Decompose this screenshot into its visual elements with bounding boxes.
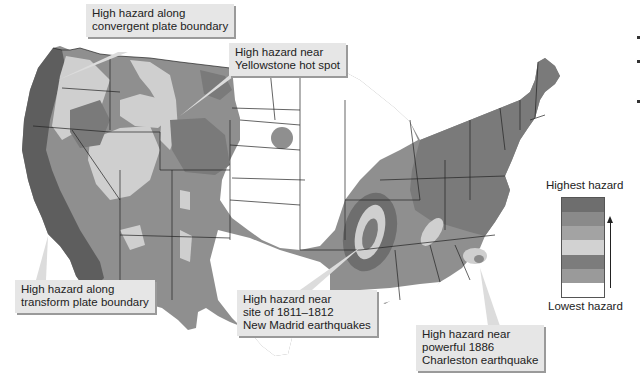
legend-band-2 — [562, 269, 604, 283]
callout-charleston: High hazard near powerful 1886 Charlesto… — [416, 325, 544, 371]
legend-bottom-label: Lowest hazard — [548, 300, 623, 312]
cropped-text-mark — [637, 36, 640, 39]
callout-line: Yellowstone hot spot — [235, 59, 340, 72]
legend-band-7 — [562, 198, 604, 212]
cropped-text-mark — [637, 60, 640, 63]
callout-line: transform plate boundary — [21, 296, 149, 309]
callout-line: High hazard near — [235, 46, 340, 59]
callout-line: High hazard along — [21, 283, 149, 296]
callout-line: powerful 1886 — [422, 341, 538, 354]
legend-band-5 — [562, 226, 604, 240]
legend-band-1 — [562, 283, 604, 297]
callout-line: High hazard near — [422, 328, 538, 341]
legend-top-label: Highest hazard — [546, 179, 623, 191]
callout-convergent: High hazard along convergent plate bound… — [86, 4, 234, 37]
legend-band-3 — [562, 255, 604, 269]
callout-line: site of 1811–1812 — [243, 306, 371, 319]
leader-charleston — [480, 268, 500, 326]
charleston-light — [463, 248, 487, 264]
increasing-arrow-icon — [610, 222, 611, 288]
plains-patch — [271, 127, 293, 149]
charleston-core — [474, 255, 484, 263]
callout-new-madrid: High hazard near site of 1811–1812 New M… — [237, 290, 377, 336]
legend-band-4 — [562, 240, 604, 254]
sw-light-3 — [180, 190, 190, 210]
legend-band-6 — [562, 212, 604, 226]
callout-yellowstone: High hazard near Yellowstone hot spot — [229, 43, 346, 76]
callout-transform: High hazard along transform plate bounda… — [15, 280, 155, 313]
callout-line: High hazard near — [243, 293, 371, 306]
cropped-text-mark — [637, 100, 640, 103]
legend-scale — [561, 197, 605, 298]
callout-line: Charleston earthquake — [422, 354, 538, 367]
callout-line: convergent plate boundary — [92, 20, 228, 33]
callout-line: New Madrid earthquakes — [243, 319, 371, 332]
callout-line: High hazard along — [92, 7, 228, 20]
east-high — [410, 58, 560, 236]
leader-transform — [36, 236, 48, 280]
